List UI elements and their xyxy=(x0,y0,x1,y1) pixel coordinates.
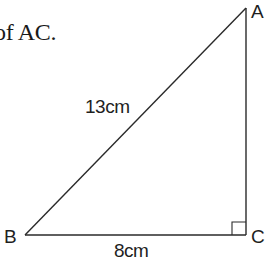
vertex-label-c: C xyxy=(251,226,265,247)
side-label-ab: 13cm xyxy=(85,96,129,117)
right-triangle-figure: A B C 13cm 8cm xyxy=(0,0,274,265)
vertex-label-a: A xyxy=(251,1,264,22)
vertex-label-b: B xyxy=(4,226,17,247)
side-ab xyxy=(25,8,246,235)
right-angle-marker xyxy=(232,222,246,235)
side-label-bc: 8cm xyxy=(114,240,148,261)
diagram-stage: of AC. A B C 13cm 8cm xyxy=(0,0,274,265)
